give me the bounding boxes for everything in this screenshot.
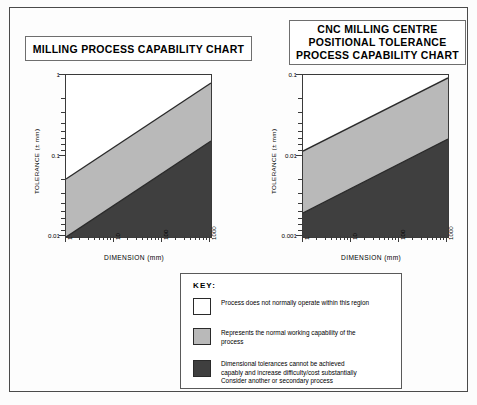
key-item-dark-gray: Dimensional tolerances cannot be achieve… [193, 359, 357, 386]
y-tick-label-left-2: 1 [42, 71, 60, 78]
y-minor-tick-right-e [298, 138, 302, 139]
y-minor-tick-left-j [61, 203, 65, 204]
y-minor-tick-left-c [61, 123, 65, 124]
x-tick-mark-left-1 [113, 236, 114, 242]
y-tick-label-left-0: 0.01 [35, 232, 60, 239]
plot-area-left [65, 74, 212, 238]
x-tick-mark-left-2 [161, 236, 162, 242]
key-item-light-gray: Represents the normal working capability… [193, 328, 356, 346]
plot-area-right [302, 74, 449, 238]
x-minor-tick-left-u [206, 236, 207, 240]
y-minor-tick-left-k [61, 211, 65, 212]
x-tick-label-left-0: 1 [66, 237, 73, 240]
y-minor-tick-right-k [298, 211, 302, 212]
y-minor-tick-left-a [61, 98, 65, 99]
y-minor-tick-left-n [61, 230, 65, 231]
capability-bands-left [66, 75, 211, 237]
chart-title-box-left: MILLING PROCESS CAPABILITY CHART [25, 36, 252, 61]
x-minor-tick-right-j [379, 236, 380, 240]
chart-title-right-line-1: POSITIONAL TOLERANCE [296, 36, 459, 49]
x-minor-tick-right-a [316, 236, 317, 240]
x-minor-tick-left-b [88, 236, 89, 240]
x-minor-tick-left-a [79, 236, 80, 240]
x-minor-tick-right-q [427, 236, 428, 240]
capability-bands-left-svg [66, 75, 211, 237]
page-root: MILLING PROCESS CAPABILITY CHART CNC MIL… [0, 0, 477, 405]
x-tick-mark-right-2 [398, 236, 399, 242]
x-tick-label-right-2: 100 [399, 230, 406, 240]
chart-title-left-line-0: MILLING PROCESS CAPABILITY CHART [33, 43, 245, 55]
y-tick-label-right-2: 0.1 [276, 71, 297, 78]
y-minor-tick-left-g [61, 150, 65, 151]
x-minor-tick-right-r [432, 236, 433, 240]
x-minor-tick-left-h [127, 236, 128, 240]
y-minor-tick-right-n [298, 230, 302, 231]
key-box: KEY: Process does not normally operate w… [180, 273, 402, 389]
x-minor-tick-left-t [203, 236, 204, 240]
key-title: KEY: [193, 281, 216, 290]
x-minor-tick-left-c [94, 236, 95, 240]
y-minor-tick-left-f [61, 144, 65, 145]
x-minor-tick-right-e [340, 236, 341, 240]
x-tick-label-right-3: 1000 [447, 226, 454, 240]
y-minor-tick-right-l [298, 218, 302, 219]
chart-title-right-line-0: CNC MILLING CENTRE [296, 23, 459, 36]
milling-process-capability-chart: TOLERANCE (± mm) DIMENSION (mm) [22, 66, 232, 266]
x-minor-tick-right-n [395, 236, 396, 240]
x-tick-mark-right-0 [302, 236, 303, 242]
x-tick-mark-left-3 [209, 236, 210, 242]
x-axis-label-right: DIMENSION (mm) [341, 254, 401, 261]
x-tick-label-left-1: 10 [114, 233, 121, 240]
chart-title-right-line-2: PROCESS CAPABILITY CHART [296, 49, 459, 62]
y-minor-tick-left-m [61, 224, 65, 225]
y-minor-tick-right-a [298, 98, 302, 99]
x-minor-tick-left-n [158, 236, 159, 240]
chart-title-box-right: CNC MILLING CENTRE POSITIONAL TOLERANCE … [289, 20, 466, 65]
x-tick-label-right-0: 1 [303, 237, 310, 240]
x-minor-tick-left-o [175, 236, 176, 240]
key-item-white: Process does not normally operate within… [193, 298, 369, 315]
key-label-light-gray-line-1: process [221, 338, 356, 347]
x-minor-tick-right-k [384, 236, 385, 240]
x-minor-tick-left-q [190, 236, 191, 240]
key-label-dark-gray-line-2: Consider another or secondary process [221, 377, 357, 386]
x-tick-mark-right-1 [350, 236, 351, 242]
y-tick-mark-right-2 [296, 74, 302, 75]
x-minor-tick-left-d [99, 236, 100, 240]
y-minor-tick-right-c [298, 123, 302, 124]
y-minor-tick-right-m [298, 224, 302, 225]
y-minor-tick-left-i [61, 193, 65, 194]
x-minor-tick-right-u [443, 236, 444, 240]
key-label-light-gray: Represents the normal working capability… [221, 328, 356, 346]
x-minor-tick-right-p [421, 236, 422, 240]
chart-title-right-text: CNC MILLING CENTRE POSITIONAL TOLERANCE … [296, 23, 459, 62]
capability-bands-right-svg [303, 75, 448, 237]
x-tick-label-right-1: 10 [351, 233, 358, 240]
capability-bands-right [303, 75, 448, 237]
y-minor-tick-left-h [61, 179, 65, 180]
x-minor-tick-right-l [388, 236, 389, 240]
x-minor-tick-right-t [440, 236, 441, 240]
y-minor-tick-right-b [298, 112, 302, 113]
key-swatch-light-gray [193, 328, 211, 345]
x-minor-tick-right-d [336, 236, 337, 240]
y-minor-tick-left-d [61, 131, 65, 132]
key-label-dark-gray-line-1: capably and increase difficulty/cost sub… [221, 369, 357, 378]
x-minor-tick-right-s [436, 236, 437, 240]
x-minor-tick-right-h [364, 236, 365, 240]
key-label-light-gray-line-0: Represents the normal working capability… [221, 329, 356, 338]
y-minor-tick-right-d [298, 131, 302, 132]
x-minor-tick-left-e [103, 236, 104, 240]
y-tick-label-right-1: 0.01 [272, 152, 297, 159]
y-minor-tick-left-e [61, 138, 65, 139]
x-minor-tick-right-c [331, 236, 332, 240]
x-minor-tick-right-g [347, 236, 348, 240]
x-minor-tick-left-k [147, 236, 148, 240]
x-minor-tick-left-p [184, 236, 185, 240]
y-axis-label-right: TOLERANCE (± mm) [270, 129, 277, 194]
y-tick-mark-left-2 [59, 74, 65, 75]
y-minor-tick-left-b [61, 112, 65, 113]
x-minor-tick-left-s [199, 236, 200, 240]
key-label-dark-gray: Dimensional tolerances cannot be achieve… [221, 359, 357, 386]
y-minor-tick-right-i [298, 193, 302, 194]
